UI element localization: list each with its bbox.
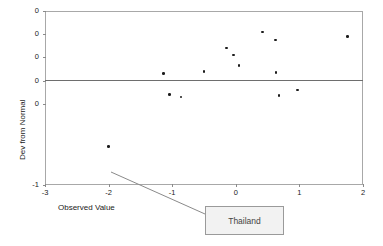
data-point[interactable] — [296, 89, 299, 92]
plot-area — [45, 11, 363, 185]
y-tick-mark — [43, 11, 46, 12]
x-tick-mark — [236, 184, 237, 187]
x-tick-mark — [172, 184, 173, 187]
y-tick-label: 0 — [23, 29, 39, 38]
data-point[interactable] — [168, 93, 171, 96]
x-tick-mark — [109, 184, 110, 187]
y-tick-mark — [43, 34, 46, 35]
y-tick-mark — [43, 57, 46, 58]
x-axis-title: Observed Value — [58, 203, 115, 212]
data-point[interactable] — [238, 64, 241, 67]
data-point[interactable] — [346, 35, 349, 38]
data-point[interactable] — [232, 54, 235, 57]
x-tick-mark — [363, 184, 364, 187]
y-tick-mark — [43, 81, 46, 82]
x-tick-label: 2 — [354, 188, 372, 197]
y-axis-title: Dev from Normal — [18, 100, 27, 160]
x-tick-mark — [299, 184, 300, 187]
data-point[interactable] — [261, 31, 264, 34]
y-tick-label: 0 — [23, 76, 39, 85]
data-point[interactable] — [275, 71, 278, 74]
data-point[interactable] — [162, 72, 165, 75]
data-point[interactable] — [274, 39, 277, 42]
zero-reference-line — [45, 80, 363, 81]
x-tick-label: -3 — [36, 188, 54, 197]
data-point[interactable] — [203, 70, 206, 73]
thailand-callout-box[interactable]: Thailand — [205, 206, 284, 235]
data-point[interactable] — [107, 145, 110, 148]
thailand-callout-label: Thailand — [228, 216, 261, 226]
x-tick-label: -1 — [163, 188, 181, 197]
y-tick-mark — [43, 104, 46, 105]
x-tick-mark — [45, 184, 46, 187]
y-tick-label: 0 — [23, 6, 39, 15]
x-tick-label: 1 — [290, 188, 308, 197]
y-tick-label: 0 — [23, 52, 39, 61]
scatter-chart-figure: 00000-1 -3-2-1012 Observed Value Dev fro… — [0, 0, 383, 246]
x-tick-label: 0 — [227, 188, 245, 197]
x-tick-label: -2 — [100, 188, 118, 197]
